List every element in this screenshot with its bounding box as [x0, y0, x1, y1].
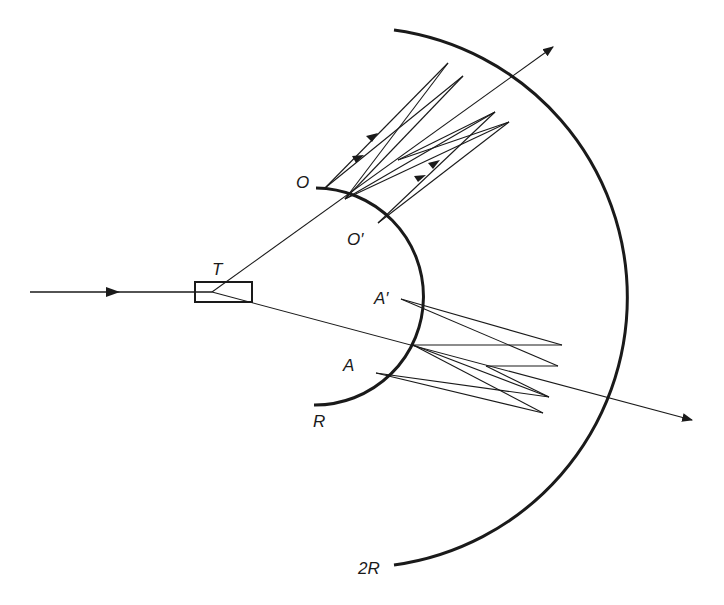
- label-2r: 2R: [358, 560, 380, 577]
- arrow-head-icon: [428, 160, 440, 169]
- label-t: T: [212, 261, 222, 278]
- label-o-prime: O′: [347, 231, 363, 248]
- optics-diagram: [0, 0, 724, 605]
- label-a-prime: A′: [374, 290, 389, 307]
- label-r: R: [313, 413, 325, 430]
- label-o: O: [296, 174, 309, 191]
- outer-mirror-2r: [394, 30, 627, 565]
- arrow-head-icon: [106, 287, 120, 297]
- label-a: A: [343, 357, 354, 374]
- input-beam: [30, 287, 212, 297]
- inner-mirror-r: [314, 188, 423, 405]
- arrow-head-icon: [366, 133, 378, 142]
